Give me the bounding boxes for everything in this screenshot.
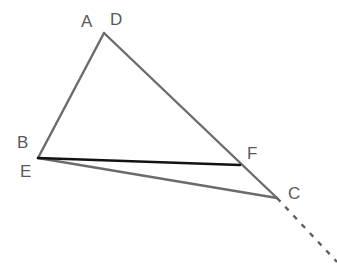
figure-canvas — [0, 0, 337, 268]
vertex-label-F: F — [247, 145, 257, 162]
vertex-label-D: D — [110, 11, 122, 28]
geometry-figure: A D B E F C — [0, 0, 337, 268]
vertex-label-B: B — [17, 134, 28, 151]
vertex-label-A: A — [81, 13, 92, 30]
edge-AB — [38, 33, 104, 158]
ray-beyond-C — [277, 198, 337, 262]
vertex-label-C: C — [288, 185, 300, 202]
vertex-label-E: E — [20, 163, 31, 180]
